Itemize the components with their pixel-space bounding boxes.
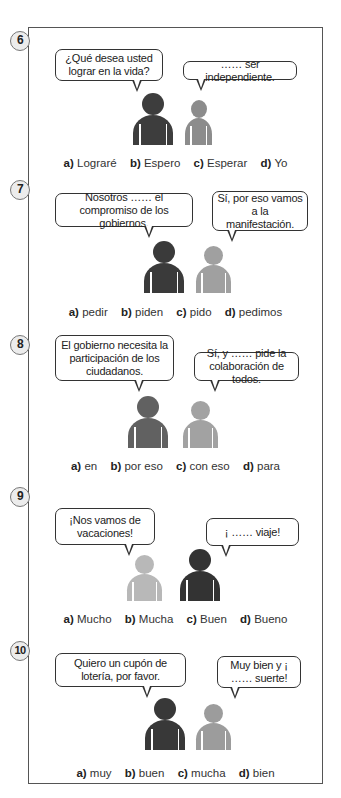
speech-bubble-left: ¿Qué desea usted lograr en la vida? xyxy=(55,49,163,81)
option-a[interactable]: a) Mucho xyxy=(64,613,112,625)
speech-text: El gobierno necesita la participación de… xyxy=(60,339,169,378)
question-number-badge: 6 xyxy=(10,31,30,51)
bubble-tail-fill xyxy=(126,544,132,553)
option-a[interactable]: a) en xyxy=(71,460,97,472)
question-number-badge: 10 xyxy=(10,641,30,661)
question-number-badge: 9 xyxy=(10,487,30,507)
bubble-tail-fill xyxy=(212,380,218,389)
speech-text: Nosotros …… el compromiso de los gobiern… xyxy=(60,191,188,230)
speech-bubble-left: Quiero un cupón de lotería, por favor. xyxy=(55,653,186,687)
option-d[interactable]: d) para xyxy=(243,460,280,472)
speech-bubble-left: El gobierno necesita la participación de… xyxy=(55,335,174,381)
speech-text: ¡ …… viaje! xyxy=(225,526,280,539)
option-a[interactable]: a) Lograré xyxy=(64,157,117,169)
speech-bubble-left: Nosotros …… el compromiso de los gobiern… xyxy=(55,193,193,227)
option-b[interactable]: b) por eso xyxy=(110,460,162,472)
person-icon-dark xyxy=(145,698,185,750)
speech-text: ¿Qué desea usted lograr en la vida? xyxy=(60,52,158,78)
option-d[interactable]: d) bien xyxy=(239,767,275,779)
person-icon-dark xyxy=(128,396,168,448)
option-c[interactable]: c) Buen xyxy=(187,613,227,625)
answer-options: a) en b) por eso c) con eso d) para xyxy=(28,460,323,472)
option-d[interactable]: d) Bueno xyxy=(240,613,287,625)
bubble-tail-fill xyxy=(144,686,150,695)
answer-options: a) muy b) buen c) mucha d) bien xyxy=(28,767,323,779)
speech-bubble-left: ¡Nos vamos de vacaciones! xyxy=(55,508,155,545)
option-c[interactable]: c) pido xyxy=(176,306,211,318)
option-b[interactable]: b) Mucha xyxy=(125,613,174,625)
speech-bubble-right: ¡ …… viaje! xyxy=(206,518,299,546)
option-b[interactable]: b) Espero xyxy=(130,157,181,169)
option-c[interactable]: c) con eso xyxy=(176,460,230,472)
speech-bubble-right: …… ser independiente. xyxy=(183,61,297,80)
speech-bubble-right: Sí, y …… pide la colaboración de todos. xyxy=(194,352,299,381)
person-icon-light xyxy=(196,246,231,293)
option-d[interactable]: d) Yo xyxy=(261,157,288,169)
option-b[interactable]: b) buen xyxy=(125,767,165,779)
option-c[interactable]: c) mucha xyxy=(178,767,226,779)
speech-text: Quiero un cupón de lotería, por favor. xyxy=(60,657,181,683)
option-d[interactable]: d) pedimos xyxy=(225,306,283,318)
person-icon-dark xyxy=(144,241,184,293)
person-icon-light xyxy=(196,704,231,750)
bubble-tail-fill xyxy=(136,380,142,389)
bubble-tail-fill xyxy=(232,687,238,696)
speech-bubble-right: Muy bien y ¡ …… suerte! xyxy=(217,656,301,688)
answer-options: a) Lograré b) Espero c) Esperar d) Yo xyxy=(28,157,323,169)
bubble-tail-fill xyxy=(223,545,229,554)
question-number-badge: 7 xyxy=(10,180,30,200)
option-a[interactable]: a) muy xyxy=(76,767,111,779)
speech-bubble-right: Sí, por eso vamos a la manifestación. xyxy=(212,191,308,231)
bubble-tail-fill xyxy=(198,79,204,88)
bubble-tail-fill xyxy=(146,226,152,235)
answer-options: a) pedir b) piden c) pido d) pedimos xyxy=(28,306,323,318)
person-icon-light xyxy=(185,100,212,145)
speech-text: Sí, por eso vamos a la manifestación. xyxy=(217,192,303,231)
option-a[interactable]: a) pedir xyxy=(69,306,108,318)
option-c[interactable]: c) Esperar xyxy=(194,157,248,169)
speech-text: Muy bien y ¡ …… suerte! xyxy=(222,659,296,685)
answer-options: a) Mucho b) Mucha c) Buen d) Bueno xyxy=(28,613,323,625)
person-icon-light xyxy=(183,401,218,448)
bubble-tail-fill xyxy=(229,230,235,239)
person-icon-dark xyxy=(180,549,220,601)
person-icon-light xyxy=(127,555,162,601)
bubble-tail-fill xyxy=(134,80,140,89)
question-number-badge: 8 xyxy=(10,335,30,355)
person-icon-dark xyxy=(133,93,173,145)
speech-text: ¡Nos vamos de vacaciones! xyxy=(60,514,150,540)
option-b[interactable]: b) piden xyxy=(121,306,163,318)
